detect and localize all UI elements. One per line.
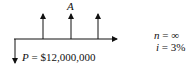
i-label: i = 3% (156, 42, 185, 53)
annuity-label: A (67, 1, 74, 12)
n-rest: = ∞ (160, 29, 180, 41)
i-rest: = 3% (159, 41, 185, 53)
n-label: n = ∞ (154, 30, 179, 41)
present-value-var: P (22, 51, 29, 63)
present-value-label: P = $12,000,000 (22, 52, 95, 63)
present-value-rest: = $12,000,000 (29, 51, 96, 63)
